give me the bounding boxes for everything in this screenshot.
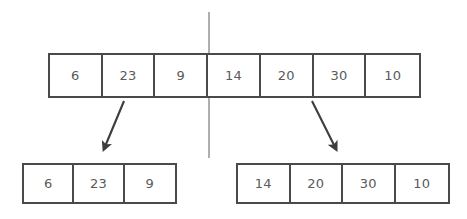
right-split-arrow: [312, 101, 336, 149]
left-half-array: 6 23 9: [22, 163, 177, 204]
array-cell: 9: [125, 165, 175, 202]
right-half-array: 14 20 30 10: [236, 163, 450, 204]
array-cell: 6: [50, 55, 103, 96]
array-cell: 14: [238, 165, 291, 202]
array-cell: 9: [155, 55, 208, 96]
array-cell: 14: [208, 55, 261, 96]
array-cell: 23: [74, 165, 124, 202]
array-cell: 20: [291, 165, 344, 202]
array-cell: 23: [103, 55, 156, 96]
array-cell: 10: [396, 165, 448, 202]
array-cell: 30: [314, 55, 367, 96]
array-cell: 10: [366, 55, 419, 96]
array-cell: 20: [261, 55, 314, 96]
array-cell: 6: [24, 165, 74, 202]
array-cell: 30: [343, 165, 396, 202]
unsorted-array: 6 23 9 14 20 30 10: [48, 53, 421, 98]
diagram-canvas: 6 23 9 14 20 30 10 6 23 9 14 20 30 10: [0, 0, 467, 219]
left-split-arrow: [104, 101, 124, 149]
